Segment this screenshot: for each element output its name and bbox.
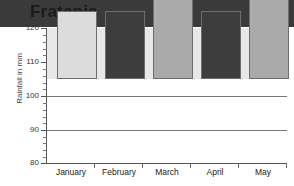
- gridline-100: [47, 96, 287, 97]
- x-axis-line: [46, 163, 287, 164]
- x-axis-label-may: May: [239, 167, 287, 177]
- y-tick-80: [41, 163, 47, 164]
- bar-april[interactable]: [201, 11, 241, 79]
- bar-series: [47, 28, 287, 79]
- bar-may[interactable]: [249, 0, 289, 79]
- y-axis-label-100: 100: [13, 92, 39, 100]
- y-axis-label-90: 90: [13, 126, 39, 134]
- bar-march[interactable]: [153, 0, 193, 79]
- x-axis-label-march: March: [143, 167, 191, 177]
- y-axis-label-80: 80: [13, 159, 39, 167]
- gridline-90: [47, 130, 287, 131]
- bar-chart: Fratania Rainfall in mm 120 110 100 90 8…: [0, 0, 294, 27]
- x-axis-label-january: January: [47, 167, 95, 177]
- y-axis-label-110: 110: [13, 58, 39, 66]
- bar-january[interactable]: [57, 11, 97, 79]
- y-axis-labels: 120 110 100 90 80: [11, 0, 39, 186]
- x-axis-label-february: February: [95, 167, 143, 177]
- y-axis-label-120: 120: [13, 24, 39, 32]
- x-axis-label-april: April: [191, 167, 239, 177]
- bar-february[interactable]: [105, 11, 145, 79]
